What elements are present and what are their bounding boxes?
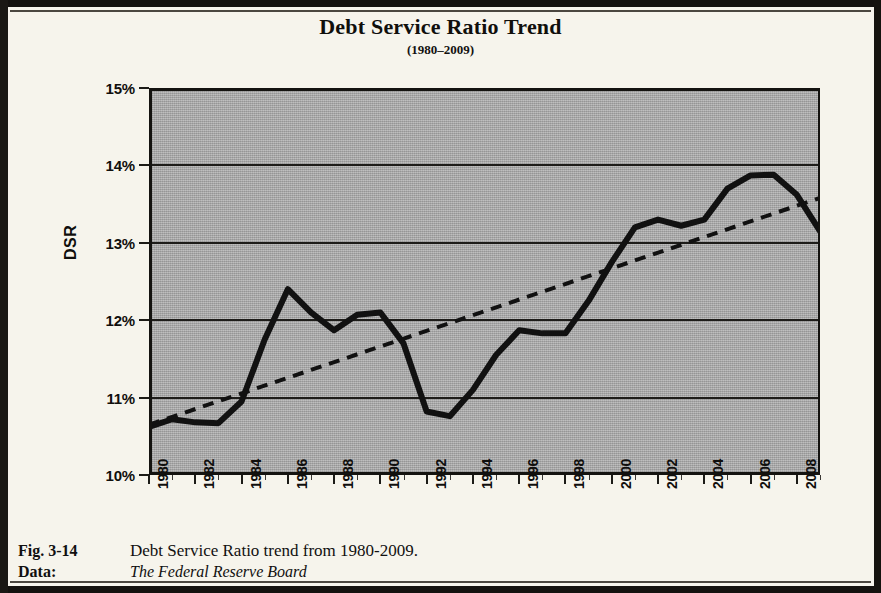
x-tick-mark-1990 (379, 475, 381, 484)
y-tick-label-10: 10% (77, 467, 135, 484)
y-tick-label-15: 15% (77, 80, 135, 97)
x-tick-mark-1981 (172, 475, 173, 480)
x-tick-mark-1989 (357, 475, 358, 480)
x-tick-mark-1991 (404, 475, 405, 480)
x-tick-mark-1999 (589, 475, 590, 480)
page-border-top (0, 0, 881, 7)
x-tick-mark-1996 (518, 475, 520, 484)
x-tick-mark-2001 (635, 475, 636, 480)
x-tick-label-2004: 2004 (710, 459, 726, 489)
x-tick-mark-1995 (496, 475, 497, 480)
x-tick-mark-1992 (426, 475, 428, 484)
x-tick-label-1998: 1998 (571, 459, 587, 489)
y-tick-label-12: 12% (77, 312, 135, 329)
x-tick-label-2008: 2008 (803, 459, 819, 489)
x-tick-mark-2008 (796, 475, 798, 484)
x-tick-label-1980: 1980 (155, 459, 171, 489)
chart-subtitle: (1980–2009) (0, 41, 881, 58)
y-tick-mark-13 (139, 242, 149, 244)
chart-series-layer (149, 88, 820, 475)
x-tick-mark-1993 (450, 475, 451, 480)
chart-title: Debt Service Ratio Trend (0, 14, 881, 40)
caption-figure-label: Fig. 3-14 (18, 540, 130, 561)
page-border-bottom (0, 586, 881, 593)
x-tick-mark-2009 (820, 475, 821, 480)
x-tick-mark-2003 (681, 475, 682, 480)
y-tick-mark-11 (139, 397, 149, 399)
caption-data-source: The Federal Reserve Board (130, 561, 307, 582)
x-tick-label-2006: 2006 (757, 459, 773, 489)
figure-page: Debt Service Ratio Trend (1980–2009) 15%… (0, 0, 881, 593)
caption-data-label: Data: (18, 561, 130, 582)
x-tick-mark-2007 (774, 475, 775, 480)
x-tick-mark-2005 (727, 475, 728, 480)
x-tick-label-2000: 2000 (618, 459, 634, 489)
x-tick-mark-1994 (472, 475, 474, 484)
linear-trendline (149, 198, 820, 425)
x-tick-label-1986: 1986 (294, 459, 310, 489)
x-tick-mark-1997 (542, 475, 543, 480)
x-tick-mark-1986 (287, 475, 289, 484)
page-border-left (0, 0, 8, 593)
x-tick-mark-2000 (611, 475, 613, 484)
x-tick-mark-1988 (333, 475, 335, 484)
x-tick-label-1996: 1996 (525, 459, 541, 489)
x-tick-label-1990: 1990 (386, 459, 402, 489)
x-tick-mark-1983 (218, 475, 219, 480)
caption-row-figure: Fig. 3-14 Debt Service Ratio trend from … (18, 540, 863, 561)
page-border-right (874, 0, 881, 593)
x-tick-mark-1982 (194, 475, 196, 484)
x-tick-mark-1980 (148, 475, 150, 484)
x-tick-mark-1984 (241, 475, 243, 484)
y-tick-mark-15 (139, 87, 149, 89)
x-tick-mark-1987 (311, 475, 312, 480)
x-tick-mark-2004 (703, 475, 705, 484)
caption-row-data: Data: The Federal Reserve Board (18, 561, 863, 582)
y-axis-title: DSR (62, 225, 80, 260)
x-tick-mark-1998 (564, 475, 566, 484)
y-tick-label-13: 13% (77, 234, 135, 251)
x-tick-label-1984: 1984 (248, 459, 264, 489)
y-tick-label-14: 14% (77, 157, 135, 174)
plot-area (149, 88, 820, 475)
x-tick-label-1982: 1982 (201, 459, 217, 489)
x-tick-label-1992: 1992 (433, 459, 449, 489)
x-tick-mark-2002 (657, 475, 659, 484)
x-tick-label-1988: 1988 (340, 459, 356, 489)
y-tick-mark-14 (139, 164, 149, 166)
page-inner-rule-top (10, 10, 871, 12)
dsr-series-line (149, 175, 820, 427)
chart-title-block: Debt Service Ratio Trend (1980–2009) (0, 14, 881, 58)
figure-caption: Fig. 3-14 Debt Service Ratio trend from … (18, 540, 863, 582)
caption-figure-text: Debt Service Ratio trend from 1980-2009. (130, 540, 418, 561)
x-tick-label-1994: 1994 (479, 459, 495, 489)
y-tick-mark-12 (139, 319, 149, 321)
x-tick-mark-2006 (750, 475, 752, 484)
x-tick-label-2002: 2002 (664, 459, 680, 489)
y-tick-label-11: 11% (77, 389, 135, 406)
x-tick-mark-1985 (265, 475, 266, 480)
